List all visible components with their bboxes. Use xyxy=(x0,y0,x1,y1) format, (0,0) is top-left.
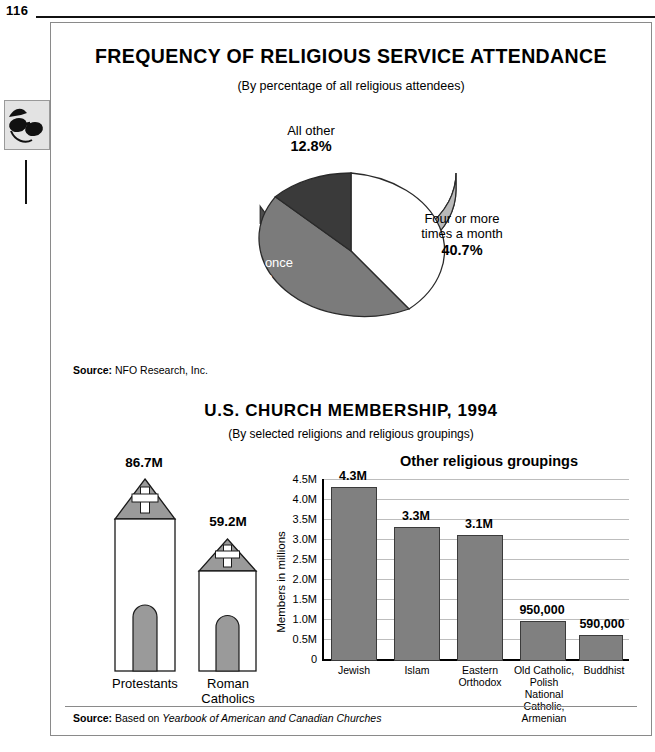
pie-chart-source: Source: NFO Research, Inc. xyxy=(73,364,208,376)
y-tick-2.5: 2.5M xyxy=(283,553,317,565)
bar-jewish xyxy=(331,487,377,661)
y-tick-1.0: 1.0M xyxy=(283,613,317,625)
sunglasses-icon xyxy=(4,100,50,150)
source-text: NFO Research, Inc. xyxy=(115,364,208,376)
bar-category-jewish: Jewish xyxy=(325,664,383,676)
source-label-2: Source: xyxy=(73,712,112,724)
bar-chart: Other religious groupings Members in mil… xyxy=(279,453,639,723)
y-tick-4.0: 4.0M xyxy=(283,493,317,505)
y-tick-3.5: 3.5M xyxy=(283,513,317,525)
pie-label-less-line1: Less than once xyxy=(184,255,314,270)
y-tick-0.5: 0.5M xyxy=(283,633,317,645)
bar-value-old-catholic: 950,000 xyxy=(505,603,579,617)
membership-chart-title: U.S. CHURCH MEMBERSHIP, 1994 xyxy=(51,401,651,421)
church-icon-protestants xyxy=(109,477,181,677)
pie-label-less-line2: a month xyxy=(184,270,314,285)
pie-chart-subtitle: (By percentage of all religious attendee… xyxy=(51,79,651,93)
pictogram-value-roman-catholics: 59.2M xyxy=(183,514,273,529)
pie-label-all-other: All other 12.8% xyxy=(251,123,371,155)
bar-chart-source: Source: Based on Yearbook of American an… xyxy=(73,712,381,724)
pie-label-four-or-more: Four or more times a month 40.7% xyxy=(403,211,521,259)
bar-category-islam: Islam xyxy=(388,664,446,676)
y-tick-0: 0 xyxy=(283,653,317,665)
bar-category-eastern-orthodox-line1: Eastern xyxy=(451,664,509,676)
pie-label-four-line2: times a month xyxy=(403,226,521,241)
source-label: Source: xyxy=(73,364,112,376)
church-pictograms: 86.7M Protestants 59.2M Roman Catholics xyxy=(61,455,276,715)
pictogram-caption-roman-catholics-line1: Roman xyxy=(173,677,283,692)
bar-eastern-orthodox xyxy=(457,535,503,661)
footer-rule xyxy=(65,706,637,707)
bar-chart-panel-title: Other religious groupings xyxy=(339,453,639,469)
pie-label-four-line1: Four or more xyxy=(403,211,521,226)
church-icon-roman-catholics xyxy=(194,537,261,677)
pie-label-less-than-once: Less than once a month 46.5% xyxy=(184,255,314,303)
pictogram-value-protestants: 86.7M xyxy=(99,455,189,470)
bar-category-buddhist: Buddhist xyxy=(575,664,633,676)
y-tick-1.5: 1.5M xyxy=(283,593,317,605)
header-rule xyxy=(36,16,655,18)
y-tick-4.5: 4.5M xyxy=(283,473,317,485)
bar-islam xyxy=(394,527,440,661)
pictogram-caption-roman-catholics-line2: Catholics xyxy=(173,692,283,707)
bar-value-islam: 3.3M xyxy=(386,509,446,523)
pie-label-four-value: 40.7% xyxy=(403,242,521,259)
source-italic-2: Yearbook of American and Canadian Church… xyxy=(162,712,381,724)
page-number: 116 xyxy=(6,3,28,18)
bar-value-eastern-orthodox: 3.1M xyxy=(449,517,509,531)
bar-value-jewish: 4.3M xyxy=(323,469,383,483)
bar-old-catholic xyxy=(520,621,566,661)
y-axis-line xyxy=(322,479,324,660)
bar-buddhist xyxy=(579,635,623,661)
bar-category-old-catholic-line5: Armenian xyxy=(511,712,577,724)
content-panel: FREQUENCY OF RELIGIOUS SERVICE ATTENDANC… xyxy=(50,22,652,736)
bar-category-old-catholic-line1: Old Catholic, xyxy=(511,664,577,676)
y-tick-2.0: 2.0M xyxy=(283,573,317,585)
pie-label-all-other-text: All other xyxy=(251,123,371,138)
bar-value-buddhist: 590,000 xyxy=(565,617,639,631)
bar-category-old-catholic-line3: National xyxy=(511,688,577,700)
membership-chart-subtitle: (By selected religions and religious gro… xyxy=(51,427,651,441)
pie-label-less-value: 46.5% xyxy=(184,286,314,303)
y-tick-3.0: 3.0M xyxy=(283,533,317,545)
pie-label-all-other-value: 12.8% xyxy=(251,138,371,155)
bar-category-old-catholic-line2: Polish xyxy=(511,676,577,688)
source-text-2: Based on xyxy=(115,712,162,724)
bar-category-eastern-orthodox-line2: Orthodox xyxy=(451,676,509,688)
margin-rule xyxy=(25,160,27,204)
pie-chart-title: FREQUENCY OF RELIGIOUS SERVICE ATTENDANC… xyxy=(51,45,651,68)
